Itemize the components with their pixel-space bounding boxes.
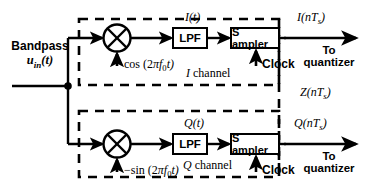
- q-lpf-label: LPF: [179, 138, 201, 150]
- q-output-signal-main: Q(nT: [294, 116, 319, 130]
- q-channel-label-letter: Q: [183, 158, 192, 172]
- q-clock-label: Clock: [262, 164, 295, 177]
- q-sampler-label: S ampler: [232, 132, 278, 156]
- i-lpf-label: LPF: [179, 32, 201, 44]
- q-lpf-block: LPF: [172, 133, 208, 155]
- i-output-signal-label: I(nTs): [297, 11, 325, 26]
- q-sampler-block: S ampler: [230, 133, 280, 155]
- diagram-canvas: LPF S ampler LPF S ampler Bandpass uin(t…: [0, 0, 366, 195]
- input-label: Bandpass uin(t): [8, 40, 72, 70]
- q-channel-label: Q channel: [183, 159, 232, 172]
- i-sampler-label: S ampler: [232, 26, 278, 50]
- i-output-destination-label: To quantizer: [294, 44, 364, 68]
- input-signal-var: u: [27, 53, 34, 67]
- q-output-signal-label: Q(nTs): [294, 117, 327, 132]
- input-signal-tail: (t): [41, 53, 53, 67]
- i-lo-tail: t): [167, 57, 174, 71]
- i-output-destination-line1: To: [294, 44, 364, 56]
- i-channel-label: I channel: [186, 67, 230, 80]
- q-output-destination-line1: To: [294, 150, 364, 162]
- q-lo-tail: t): [171, 163, 178, 177]
- i-lo-label: cos (2πf0t): [124, 58, 174, 73]
- q-channel-label-word: channel: [192, 158, 232, 172]
- q-lo-label: −sin (2πf0t): [124, 164, 179, 179]
- i-mid-signal-label: I(t): [185, 11, 200, 24]
- q-output-destination-line2: quantizer: [294, 162, 364, 174]
- q-lo-prefix: −sin (2: [124, 163, 158, 177]
- combined-output-signal-tail: ): [327, 85, 331, 99]
- q-output-destination-label: To quantizer: [294, 150, 364, 174]
- q-mid-signal-label: Q(t): [184, 117, 204, 130]
- i-lo-prefix: cos (2: [124, 57, 153, 71]
- i-clock-label: Clock: [262, 58, 295, 71]
- i-sampler-block: S ampler: [230, 27, 280, 49]
- combined-output-signal-main: Z(nT: [300, 85, 323, 99]
- input-label-line1: Bandpass: [8, 40, 72, 53]
- q-output-signal-tail: ): [323, 116, 327, 130]
- input-label-line2: uin(t): [8, 54, 72, 70]
- i-output-destination-line2: quantizer: [294, 56, 364, 68]
- i-channel-label-word: channel: [190, 66, 230, 80]
- combined-output-signal-label: Z(nTs): [300, 86, 331, 101]
- i-lpf-block: LPF: [172, 27, 208, 49]
- i-output-signal-tail: ): [321, 10, 325, 24]
- i-output-signal-main: I(nT: [297, 10, 318, 24]
